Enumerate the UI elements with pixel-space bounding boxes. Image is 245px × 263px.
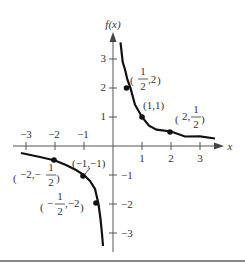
- svg-text:,2: ,2: [148, 73, 156, 85]
- y-tick-label: −1: [121, 169, 133, 181]
- svg-text:1: 1: [193, 103, 199, 115]
- point-m1-m1: [80, 173, 86, 179]
- y-tick-label: 3: [101, 52, 107, 64]
- reciprocal-function-graph: −3 −2 −1 1 2 3 3 2 1 −1 −2 −3 f(x) x ( 1…: [0, 0, 245, 263]
- x-tick-label: −3: [20, 128, 32, 140]
- label-1-1: (1,1): [143, 99, 164, 112]
- label-m1-m1: (−1,−1): [72, 157, 106, 170]
- x-tick-label: 2: [168, 152, 174, 164]
- svg-text:2: 2: [57, 205, 63, 217]
- y-tick-label: 1: [101, 110, 107, 122]
- svg-text:1: 1: [48, 161, 54, 173]
- x-tick-label: 3: [197, 152, 203, 164]
- y-tick-label: −2: [121, 198, 133, 210]
- svg-text:2: 2: [193, 118, 199, 130]
- svg-text:2: 2: [48, 176, 54, 188]
- y-axis-title: f(x): [105, 18, 121, 31]
- y-tick-label: −3: [121, 227, 133, 239]
- y-tick-label: 2: [101, 81, 107, 93]
- svg-text:,−2: ,−2: [65, 197, 79, 209]
- svg-text:): ): [80, 201, 84, 214]
- x-tick-label: −2: [48, 128, 60, 140]
- svg-text:2: 2: [140, 80, 146, 92]
- svg-text:2,: 2,: [182, 110, 191, 122]
- label-half-2: ( 1 2 ,2 ): [130, 65, 161, 92]
- svg-text:(: (: [130, 74, 134, 87]
- x-axis-arrow-icon: [214, 143, 224, 150]
- svg-text:1: 1: [140, 65, 146, 77]
- x-tick-label: 1: [139, 152, 145, 164]
- svg-text:(: (: [13, 172, 17, 185]
- svg-text:): ): [201, 113, 205, 126]
- svg-text:1: 1: [57, 190, 63, 202]
- x-axis-title: x: [227, 140, 233, 152]
- label-2-half: ( 2, 1 2 ): [175, 103, 205, 130]
- label-mhalf-m2: ( − 1 2 ,−2 ): [40, 190, 84, 217]
- bottom-divider: [0, 260, 245, 262]
- svg-text:−2,−: −2,−: [20, 168, 41, 180]
- y-axis-arrow-icon: [110, 32, 117, 42]
- point-2-half: [167, 129, 173, 135]
- point-mhalf-m2: [93, 200, 99, 206]
- svg-text:): ): [157, 74, 161, 87]
- svg-text:(: (: [40, 201, 44, 214]
- svg-text:−: −: [47, 197, 53, 209]
- svg-text:(: (: [175, 113, 179, 126]
- point-half-2: [124, 85, 130, 91]
- axes: [13, 38, 220, 252]
- x-tick-label: −1: [77, 128, 89, 140]
- svg-text:): ): [56, 172, 60, 185]
- label-m2-mhalf: ( −2,− 1 2 ): [13, 161, 60, 188]
- point-1-1: [139, 114, 145, 120]
